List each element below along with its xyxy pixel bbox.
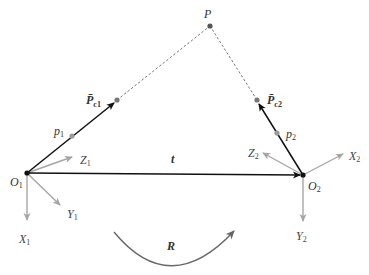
label-z2: Z2	[248, 146, 259, 161]
point-pc2	[254, 97, 259, 102]
label-p2: p2	[285, 127, 296, 142]
ray-pc2-to-p	[210, 26, 257, 100]
origin-o1	[24, 170, 29, 175]
ray-pc1-to-p	[117, 26, 210, 100]
label-R: R	[166, 239, 175, 253]
axis-x2-arrow	[303, 154, 343, 175]
point-p2	[274, 130, 279, 135]
point-P	[207, 23, 212, 28]
point-p1	[69, 133, 74, 138]
label-z1: Z1	[80, 153, 91, 168]
label-P: P	[203, 7, 212, 21]
stereo-geometry-diagram: P P̄c1 P̄c2 p1 p2 O1 O2 Z1 Y1 X1 Z2 X2 Y…	[0, 0, 369, 275]
label-x1: X1	[18, 232, 30, 247]
point-pc1	[114, 97, 119, 102]
label-pc2: P̄c2	[267, 93, 282, 109]
label-o2: O2	[308, 179, 321, 194]
label-x2: X2	[348, 149, 360, 164]
label-t: t	[171, 152, 175, 166]
translation-arrow-t	[27, 173, 300, 175]
axis-y1-arrow	[27, 173, 60, 205]
label-p1: p1	[53, 124, 64, 139]
label-pc1: P̄c1	[86, 93, 101, 109]
label-y1: Y1	[67, 207, 78, 222]
vector-o2-to-pc2	[259, 104, 303, 175]
origin-o2	[300, 172, 305, 177]
label-y2: Y2	[296, 229, 307, 244]
axis-z1-arrow	[27, 157, 72, 173]
label-o1: O1	[10, 175, 23, 190]
